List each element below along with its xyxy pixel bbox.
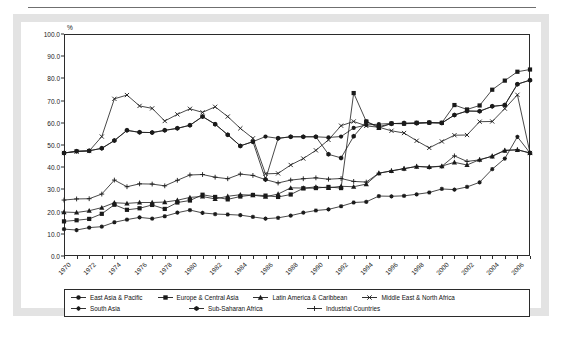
x-axis-tick-mark — [253, 256, 254, 259]
x-axis-tick-mark — [140, 256, 141, 259]
data-point — [226, 212, 230, 216]
legend-item-label: Sub-Saharan Africa — [208, 305, 263, 312]
x-axis-tick-mark — [480, 256, 481, 259]
data-point — [200, 172, 205, 177]
x-axis-tick-label: 1978 — [158, 261, 173, 276]
data-point — [503, 156, 507, 160]
figure-frame: % 0.010.020.030.040.050.060.070.080.090.… — [13, 14, 549, 316]
data-point — [238, 213, 242, 217]
data-point — [427, 146, 431, 150]
x-axis-tick-mark — [278, 256, 279, 259]
y-axis-tick-label: 70.0 — [47, 97, 60, 104]
data-point — [528, 67, 532, 71]
series-line — [64, 70, 530, 222]
data-point — [288, 178, 293, 183]
data-point — [125, 208, 129, 212]
series-south-asia — [62, 135, 532, 232]
data-point — [503, 79, 507, 83]
data-point — [163, 128, 167, 133]
data-point — [62, 219, 66, 223]
data-point — [100, 146, 104, 151]
x-axis-tick-mark — [417, 256, 418, 259]
x-axis-tick-label: 1996 — [384, 261, 399, 276]
x-axis-tick-mark — [127, 256, 128, 259]
y-axis-tick-label: 50.0 — [47, 142, 60, 149]
data-point — [276, 191, 281, 196]
figure-panel: % 0.010.020.030.040.050.060.070.080.090.… — [21, 22, 541, 308]
y-axis-tick-label: 40.0 — [47, 164, 60, 171]
data-point — [238, 172, 243, 177]
legend-item-sub-saharan-africa[interactable]: Sub-Saharan Africa — [188, 304, 292, 313]
data-point — [125, 93, 129, 97]
y-axis-tick-label: 10.0 — [47, 230, 60, 237]
data-point — [528, 78, 532, 83]
plot-area: 0.010.020.030.040.050.060.070.080.090.01… — [64, 34, 530, 256]
data-point — [188, 123, 192, 128]
x-axis-tick-mark — [114, 256, 115, 259]
data-point — [339, 124, 343, 128]
chart-legend: East Asia & PacificEurope & Central Asia… — [64, 289, 530, 317]
plus-marker-icon — [306, 304, 323, 313]
data-point — [351, 179, 356, 184]
x-axis-tick-mark — [328, 256, 329, 259]
hexagon-marker-icon — [188, 304, 205, 313]
y-axis-tick-label: 20.0 — [47, 208, 60, 215]
x-axis-tick-label: 1972 — [82, 261, 97, 276]
data-point — [188, 173, 193, 178]
data-point — [263, 134, 267, 138]
data-point — [276, 136, 280, 141]
data-point — [364, 200, 368, 204]
data-point — [352, 126, 356, 130]
series-industrial-countries — [62, 147, 533, 202]
data-point — [213, 175, 218, 180]
x-axis-tick-mark — [530, 256, 531, 259]
x-axis-tick-mark — [391, 256, 392, 259]
legend-item-europe-central-asia[interactable]: Europe & Central Asia — [157, 293, 239, 302]
data-point — [62, 227, 66, 231]
data-point — [112, 220, 116, 224]
x-axis-tick-mark — [505, 256, 506, 259]
data-point — [200, 114, 204, 119]
x-axis-tick-label: 2000 — [435, 261, 450, 276]
data-point — [515, 135, 519, 139]
legend-item-industrial-countries[interactable]: Industrial Countries — [306, 304, 410, 313]
data-point — [402, 194, 406, 198]
data-point — [478, 180, 482, 184]
series-sub-saharan-africa — [62, 78, 532, 182]
data-point — [427, 190, 431, 194]
legend-item-label: Industrial Countries — [326, 305, 380, 312]
data-point — [188, 208, 192, 212]
data-point — [289, 213, 293, 217]
data-point — [100, 134, 104, 138]
legend-item-label: Middle East & North Africa — [381, 294, 455, 301]
legend-item-south-asia[interactable]: South Asia — [70, 304, 174, 313]
square-marker-icon — [157, 293, 174, 302]
x-axis-tick-mark — [379, 256, 380, 259]
x-axis-tick-label: 1980 — [183, 261, 198, 276]
x-axis-tick-mark — [492, 256, 493, 259]
x-axis-tick-label: 1998 — [409, 261, 424, 276]
x-axis-tick-mark — [102, 256, 103, 259]
legend-item-east-asia-pacific[interactable]: East Asia & Pacific — [70, 293, 143, 302]
x-axis-tick-mark — [240, 256, 241, 259]
legend-row: South AsiaSub-Saharan AfricaIndustrial C… — [70, 304, 524, 313]
x-axis-tick-label: 1976 — [132, 261, 147, 276]
data-point — [289, 163, 293, 167]
y-axis-tick-label: 90.0 — [47, 53, 60, 60]
y-axis-unit-label: % — [67, 24, 73, 31]
data-point — [301, 134, 305, 139]
data-point — [440, 187, 444, 191]
x-axis-tick-mark — [165, 256, 166, 259]
series-line — [64, 80, 530, 179]
data-point — [87, 196, 92, 201]
data-point — [226, 114, 230, 118]
legend-item-latin-america-caribbean[interactable]: Latin America & Caribbean — [252, 293, 347, 302]
data-point — [440, 139, 444, 143]
data-point — [339, 155, 343, 160]
data-point — [490, 167, 494, 171]
data-point — [515, 70, 519, 74]
x-axis-tick-mark — [366, 256, 367, 259]
data-point — [213, 105, 217, 109]
data-point — [125, 217, 129, 221]
legend-item-middle-east-north-africa[interactable]: Middle East & North Africa — [361, 293, 455, 302]
